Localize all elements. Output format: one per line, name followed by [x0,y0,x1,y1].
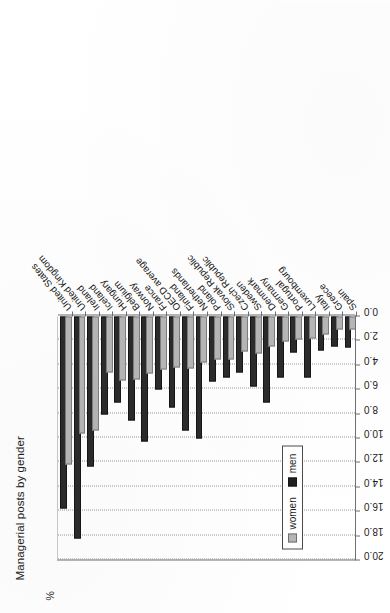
value-tick-label: 18.0 [364,525,383,536]
legend-swatch-women [288,533,297,542]
bar-group [139,316,153,559]
bar-group [99,316,113,559]
bar-group [315,316,329,559]
value-tick-label: 16.0 [364,500,383,511]
bar-group [221,316,235,559]
category-tick [180,311,181,316]
category-tick [275,311,276,316]
chart-page: Managerial posts by gender % 20.018.016.… [0,0,390,613]
category-tick [153,311,154,316]
value-tick-label: 10.0 [364,427,383,438]
bar-group [166,316,180,559]
category-tick [234,311,235,316]
bar-group [112,316,126,559]
legend-item-men[interactable]: men [287,453,298,485]
value-tick-20.0 [355,559,360,560]
category-tick [99,311,100,316]
category-tick [329,311,330,316]
value-tick-label: 12.0 [364,451,383,462]
value-tick-8.0 [355,413,360,414]
value-tick-10.0 [355,437,360,438]
category-tick [72,311,73,316]
value-tick-label: 8.0 [364,403,378,414]
value-tick-0.0 [355,315,360,316]
value-tick-label: 14.0 [364,476,383,487]
category-tick [248,311,249,316]
page-title: Managerial posts by gender [14,435,26,580]
category-tick [221,311,222,316]
bar-group [248,316,262,559]
value-tick-label: 0.0 [364,305,378,316]
category-tick [288,311,289,316]
bar-group [193,316,207,559]
category-tick [207,311,208,316]
category-tick [302,311,303,316]
plot-area [57,316,355,560]
bar-group [261,316,275,559]
legend-label: women [287,497,298,529]
category-tick [126,311,127,316]
bar-group [329,316,343,559]
bar-group [342,316,356,559]
bar-group [207,316,221,559]
bar-group [126,316,140,559]
bar-group [234,316,248,559]
legend-swatch-men [288,477,297,486]
value-tick-label: 6.0 [364,378,378,389]
category-tick [193,311,194,316]
value-tick-16.0 [355,510,360,511]
legend-item-women[interactable]: women [287,497,298,542]
legend[interactable]: womenmen [282,445,303,549]
category-tick [315,311,316,316]
axis-unit-label: % [44,591,56,600]
value-tick-4.0 [355,364,360,365]
bar-group [302,316,316,559]
value-tick-label: 4.0 [364,354,378,365]
legend-label: men [287,453,298,472]
bar-group [153,316,167,559]
bar-group [72,316,86,559]
category-tick [139,311,140,316]
category-tick [342,311,343,316]
bar-group [180,316,194,559]
category-tick [166,311,167,316]
value-tick-12.0 [355,461,360,462]
value-tick-18.0 [355,535,360,536]
value-tick-14.0 [355,486,360,487]
category-tick [261,311,262,316]
value-tick-6.0 [355,388,360,389]
value-tick-2.0 [355,339,360,340]
category-tick [112,311,113,316]
bar-group [85,316,99,559]
value-tick-label: 20.0 [364,549,383,560]
category-tick [85,311,86,316]
value-tick-label: 2.0 [364,329,378,340]
bar-group [58,316,72,559]
